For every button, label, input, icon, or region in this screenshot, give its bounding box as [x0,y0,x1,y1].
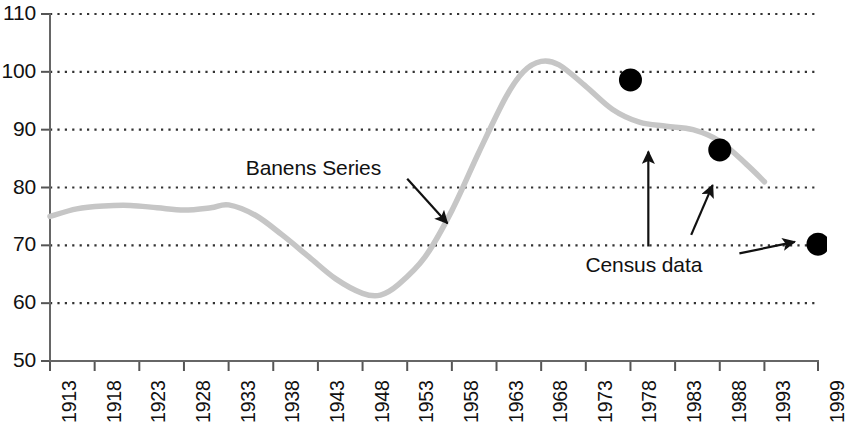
x-axis-tick-label: 1943 [326,380,349,423]
gridlines [50,14,819,361]
annotation-arrow [739,242,794,254]
x-axis-tick-label: 1983 [683,380,706,423]
y-axis-tick-label: 60 [0,290,36,314]
x-axis-tick-label: 1913 [58,380,81,423]
x-axis-tick-label: 1933 [237,380,260,423]
x-axis-tick-label: 1948 [371,380,394,423]
annotation-arrow [691,185,712,235]
y-axis-tick-label: 50 [0,348,36,372]
x-axis-tick-label: 1999 [826,380,849,423]
x-axis-tick-label: 1988 [728,380,751,423]
x-axis-tick-label: 1923 [147,380,170,423]
annotation-arrows [407,152,795,254]
annotation-banens-series: Banens Series [246,156,381,180]
x-axis-tick-label: 1963 [505,380,528,423]
census-data-point [619,68,642,91]
x-axis-tick-label: 1973 [594,380,617,423]
x-axis-tick-label: 1968 [549,380,572,423]
y-axis-tick-label: 110 [0,1,36,25]
y-axis-tick-label: 90 [0,117,36,141]
census-data-point [807,233,828,256]
y-axis-tick-label: 80 [0,175,36,199]
x-axis-tick-label: 1928 [192,380,215,423]
census-data-markers [619,68,827,255]
y-axis-tick-label: 100 [0,59,36,83]
annotation-census-data: Census data [585,253,702,277]
x-axis-tick-label: 1918 [103,380,126,423]
annotation-arrow [407,179,447,224]
census-data-point [708,138,731,161]
y-axis-tick-label: 70 [0,232,36,256]
x-axis-tick-label: 1978 [638,380,661,423]
x-axis-tick-label: 1953 [415,380,438,423]
x-axis-tick-label: 1958 [460,380,483,423]
x-axis-tick-label: 1993 [772,380,795,423]
x-axis-tick-label: 1938 [281,380,304,423]
